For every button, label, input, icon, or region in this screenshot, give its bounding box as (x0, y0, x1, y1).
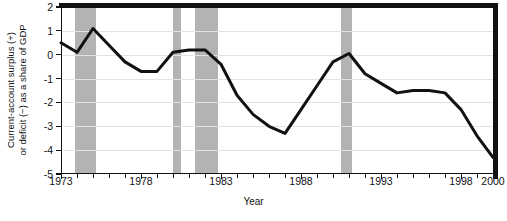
x-tick-label-1978: 1978 (119, 176, 163, 187)
x-tick-minor-1995 (413, 174, 414, 178)
y-axis-title-line2: or deficit (−) as a share of GDP (17, 24, 29, 155)
x-tick-minor-1986 (269, 174, 270, 178)
x-tick-minor-1996 (429, 174, 430, 178)
x-tick-minor-1981 (189, 174, 190, 178)
x-tick-minor-1991 (349, 174, 350, 178)
plot-area (61, 7, 493, 174)
y-tick-label--2: -2 (27, 97, 53, 108)
axis-line-right (493, 3, 498, 179)
y-tick-label-0: 0 (27, 50, 53, 61)
axis-line-left (61, 7, 62, 174)
data-line-current-account (61, 7, 493, 174)
x-axis-title: Year (0, 196, 507, 207)
x-tick-label-1983: 1983 (199, 176, 243, 187)
y-tick-label-2: 2 (27, 2, 53, 13)
chart-figure: Current-account surplus (+) or deficit (… (0, 0, 507, 221)
x-tick-minor-1980 (173, 174, 174, 178)
y-tick-label--3: -3 (27, 121, 53, 132)
y-tick-label--4: -4 (27, 145, 53, 156)
y-tick-label--1: -1 (27, 74, 53, 85)
x-tick-minor-1975 (93, 174, 94, 178)
axis-line-top (59, 3, 497, 8)
x-tick-minor-1990 (333, 174, 334, 178)
x-tick-minor-1976 (109, 174, 110, 178)
x-tick-label-2000: 2000 (471, 176, 507, 187)
x-tick-label-1993: 1993 (359, 176, 403, 187)
x-tick-minor-1985 (253, 174, 254, 178)
x-tick-label-1973: 1973 (39, 176, 83, 187)
x-tick-label-1988: 1988 (279, 176, 323, 187)
y-tick-label-1: 1 (27, 26, 53, 37)
y-axis-title-line1: Current-account surplus (+) (5, 24, 17, 155)
axis-line-bottom (61, 173, 493, 174)
